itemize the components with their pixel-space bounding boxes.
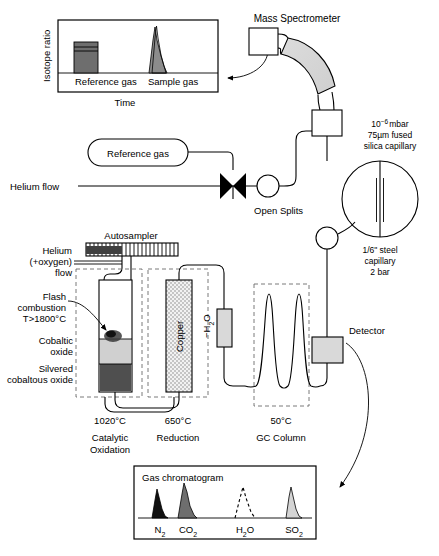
- isotope-ratio-axis-label: Isotope ratio: [41, 30, 52, 82]
- catalytic-oxidation-line1: Catalytic: [92, 432, 129, 443]
- cobaltic-oxide-line2: oxide: [50, 346, 73, 357]
- silvered-oxide-line2: cobaltous oxide: [7, 374, 73, 385]
- flash-combustion-line2: combustion: [17, 302, 66, 313]
- silvered-oxide-line1: Silvered: [39, 363, 73, 374]
- capillary-note-line3: silica capillary: [364, 141, 417, 151]
- capillary-pressure-unit: mbar: [389, 119, 409, 129]
- helium-oxygen-line1: Helium: [42, 245, 72, 256]
- ea-irms-schematic: Reference gas Sample gas Isotope ratio T…: [0, 0, 439, 556]
- flash-combustion-line1: Flash: [43, 291, 66, 302]
- magnet-sector: [281, 38, 335, 94]
- capillary-pressure-exponent: −6: [381, 118, 389, 125]
- open-split-lower: [316, 227, 338, 249]
- svg-text:−H2O: −H2O: [201, 314, 215, 338]
- steel-capillary-line3: 2 bar: [370, 267, 390, 277]
- detector: [312, 337, 343, 363]
- helium-oxygen-line3: flow: [55, 267, 72, 278]
- helium-flow-label: Helium flow: [10, 181, 59, 192]
- svg-text:10−6mbar: 10−6mbar: [371, 118, 408, 130]
- time-axis-label: Time: [115, 97, 136, 108]
- open-split-upper: [257, 175, 279, 197]
- open-splits-label: Open Splits: [254, 205, 303, 216]
- oxidation-temp: 1020°C: [94, 415, 126, 426]
- gc-temp: 50°C: [270, 415, 291, 426]
- reduction-stage-label: Reduction: [157, 432, 200, 443]
- water-trap-label-end: O: [201, 314, 212, 321]
- capillary-pressure-value: 10: [371, 119, 381, 129]
- helium-oxygen-line2: (+oxygen): [29, 256, 72, 267]
- gas-chromatogram-title: Gas chromatogram: [142, 472, 223, 483]
- capillary-note: 10−6mbar 75µm fused silica capillary: [364, 118, 417, 152]
- reference-gas-vessel: Reference gas: [88, 139, 188, 166]
- mass-spectrometer-label: Mass Spectrometer: [254, 13, 341, 24]
- detector-label: Detector: [349, 325, 385, 336]
- gc-column-stage-label: GC Column: [256, 432, 306, 443]
- cobaltic-oxide-line1: Cobaltic: [39, 335, 74, 346]
- capillary-magnifier: [342, 161, 418, 237]
- steel-capillary-line2: capillary: [364, 256, 396, 266]
- water-trap-label: −H: [201, 325, 212, 338]
- steel-capillary-line1: 1/6" steel: [362, 245, 397, 255]
- gas-chromatogram-plot: Gas chromatogram N2 CO2 H2O SO2: [134, 466, 316, 539]
- copper-label: Copper: [174, 321, 185, 352]
- reduction-temp: 650°C: [165, 415, 192, 426]
- detector-to-chromatogram-arrow: [340, 343, 369, 487]
- capillary-note-line2: 75µm fused: [368, 130, 413, 140]
- catalytic-oxidation-line2: Oxidation: [90, 444, 130, 455]
- water-trap: −H2O: [201, 309, 232, 347]
- autosampler-label: Autosampler: [104, 230, 157, 241]
- isotope-ratio-plot: Reference gas Sample gas Isotope ratio T…: [41, 20, 218, 108]
- mass-spectrometer: Mass Spectrometer: [249, 13, 342, 136]
- flash-combustion-temp: T>1800°C: [23, 313, 66, 324]
- diagram-canvas: Reference gas Sample gas Isotope ratio T…: [0, 0, 439, 556]
- reference-gas-trace-label: Reference gas: [75, 76, 137, 87]
- reference-gas-trace: [74, 42, 98, 73]
- collector-box: [312, 110, 342, 136]
- ion-source-box: [249, 28, 278, 55]
- combustion-tube: [99, 280, 132, 392]
- copper-reduction-tube: Copper: [166, 280, 192, 392]
- sample-gas-trace-label: Sample gas: [148, 76, 198, 87]
- autosampler-carousel: [86, 243, 178, 256]
- reference-gas-label: Reference gas: [107, 148, 169, 159]
